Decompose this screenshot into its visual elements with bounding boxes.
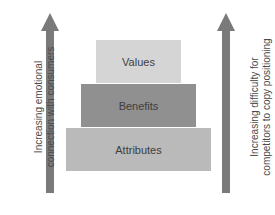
- emotional-connection-label-line1: Increasing emotional: [33, 42, 45, 172]
- tier-attributes-label: Attributes: [115, 144, 161, 156]
- competitor-difficulty-label-line2: competitors to copy positioning: [261, 32, 273, 182]
- tier-benefits: Benefits: [81, 84, 196, 127]
- tier-values: Values: [96, 40, 181, 83]
- tier-benefits-label: Benefits: [119, 100, 159, 112]
- emotional-connection-label-line2: connection with consumers: [45, 42, 57, 172]
- tier-attributes: Attributes: [66, 128, 211, 171]
- tier-values-label: Values: [122, 56, 155, 68]
- up-arrow-icon-right: [216, 13, 236, 193]
- competitor-difficulty-label: Increasing difficulty for competitors to…: [249, 32, 275, 182]
- emotional-connection-label: Increasing emotional connection with con…: [33, 42, 59, 172]
- positioning-pyramid-diagram: Increasing emotional connection with con…: [0, 0, 275, 215]
- competitor-difficulty-label-line1: Increasing difficulty for: [249, 32, 261, 182]
